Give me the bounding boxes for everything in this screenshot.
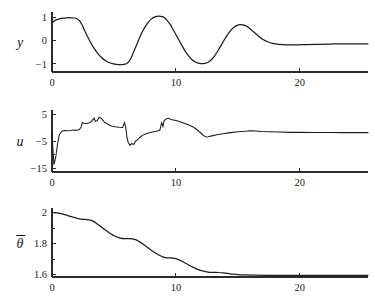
curve-theta xyxy=(52,213,368,276)
series-group-y xyxy=(52,16,368,64)
x-tick-label: 0 xyxy=(49,177,54,188)
x-tick-label: 20 xyxy=(295,177,306,188)
plot-panel-theta: 1.61.82 01020 θ xyxy=(0,200,375,300)
simulation-figure: −101 01020 y −15−55 01020 u xyxy=(0,0,375,300)
axis-label-text: θ xyxy=(17,236,24,251)
y-tick-label: 5 xyxy=(42,109,47,120)
plot-panel-y: −101 01020 y xyxy=(0,0,375,100)
y-tick-labels: −15−55 xyxy=(31,109,47,174)
x-tick-labels: 01020 xyxy=(49,77,305,88)
y-tick-label: 1 xyxy=(42,12,47,23)
plot-svg-u: −15−55 01020 u xyxy=(0,100,375,200)
y-tick-marks xyxy=(52,213,56,275)
x-tick-marks xyxy=(176,168,300,172)
plot-panel-u: −15−55 01020 u xyxy=(0,100,375,200)
axes-group-y: −101 01020 xyxy=(36,12,368,88)
x-tick-label: 20 xyxy=(295,77,306,88)
y-tick-label: 0 xyxy=(42,35,47,46)
y-tick-label: −15 xyxy=(31,163,47,174)
x-tick-label: 10 xyxy=(171,77,182,88)
y-tick-label: −5 xyxy=(36,136,47,147)
y-tick-labels: −101 xyxy=(36,12,47,69)
x-tick-label: 0 xyxy=(49,282,54,293)
plot-svg-y: −101 01020 y xyxy=(0,0,375,100)
axes-group-u: −15−55 01020 xyxy=(31,109,368,188)
axis-label-text: u xyxy=(17,134,24,149)
x-tick-labels: 01020 xyxy=(49,177,305,188)
x-tick-label: 0 xyxy=(49,77,54,88)
y-tick-label: 2 xyxy=(42,207,47,218)
x-tick-marks xyxy=(176,68,300,72)
x-tick-label: 10 xyxy=(171,177,182,188)
series-group-u xyxy=(52,117,368,164)
series-group-theta xyxy=(52,213,368,276)
y-tick-labels: 1.61.82 xyxy=(34,207,47,280)
x-tick-label: 10 xyxy=(171,282,182,293)
x-tick-labels: 01020 xyxy=(49,282,305,293)
plot-svg-theta: 1.61.82 01020 θ xyxy=(0,200,375,300)
axes-group-theta: 1.61.82 01020 xyxy=(34,207,368,293)
curve-y xyxy=(52,16,368,64)
axis-label-y: y xyxy=(15,35,24,50)
axis-label-text: y xyxy=(15,35,24,50)
y-tick-marks xyxy=(52,18,56,64)
y-tick-label: 1.6 xyxy=(34,269,47,280)
y-tick-label: −1 xyxy=(36,59,47,70)
axis-label-theta: θ xyxy=(16,235,25,251)
x-tick-label: 20 xyxy=(295,282,306,293)
curve-u xyxy=(52,117,368,164)
axis-label-u: u xyxy=(17,134,24,149)
y-tick-label: 1.8 xyxy=(34,238,47,249)
